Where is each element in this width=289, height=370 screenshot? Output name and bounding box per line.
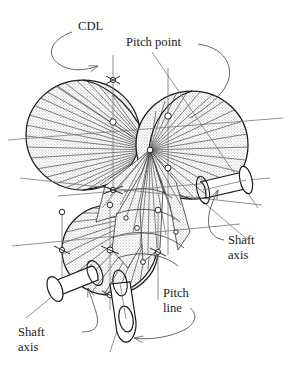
label-cdl: CDL [78, 19, 103, 33]
cdl-leader [51, 32, 98, 70]
label-shaft-axis-right-line2: axis [228, 248, 248, 262]
label-pitch-point: Pitch point [126, 35, 181, 49]
label-pitch-line: Pitch line [163, 286, 190, 315]
label-pitch-line-line2: line [163, 301, 182, 315]
label-shaft-axis-right-line1: Shaft [228, 233, 255, 247]
gear-diagram-figure: CDL Pitch point Shaft axis Shaft axis Pi… [0, 0, 289, 370]
label-pitch-line-line1: Pitch [163, 286, 190, 300]
shaft-axis-right-leader [209, 190, 224, 240]
label-shaft-axis-right: Shaft axis [228, 233, 255, 262]
diagram-canvas: CDL Pitch point Shaft axis Shaft axis Pi… [0, 0, 289, 370]
label-shaft-axis-left-line1: Shaft [18, 325, 45, 339]
shaft-axis-left-leader [82, 288, 97, 332]
label-shaft-axis-left-line2: axis [18, 340, 38, 354]
label-shaft-axis-left: Shaft axis [18, 325, 45, 354]
